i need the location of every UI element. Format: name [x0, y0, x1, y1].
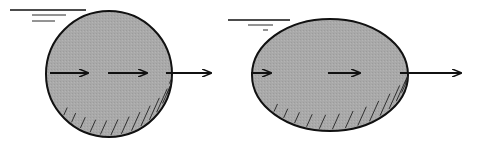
ellipse-body — [228, 19, 461, 131]
ellipse-body-shape — [252, 19, 408, 131]
diagram-canvas: Two shaded bodies (circle and ellipse) b… — [0, 0, 487, 147]
circle-body — [10, 10, 211, 137]
diagram-svg — [0, 0, 487, 147]
